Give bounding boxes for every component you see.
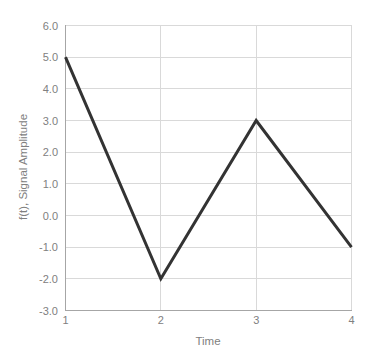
plot-area-background xyxy=(65,25,352,310)
y-axis-title: f(t), Signal Amplitude xyxy=(17,114,29,220)
y-tick-label: 1.0 xyxy=(43,178,58,190)
y-tick-label: -2.0 xyxy=(39,273,58,285)
x-tick-label: 2 xyxy=(158,314,164,326)
x-axis-title: Time xyxy=(195,335,220,347)
y-tick-label: 2.0 xyxy=(43,146,58,158)
y-tick-label: 5.0 xyxy=(43,51,58,63)
y-tick-label: 3.0 xyxy=(43,115,58,127)
y-tick-label: 4.0 xyxy=(43,83,58,95)
x-tick-labels: 1 2 3 4 xyxy=(62,314,354,326)
y-tick-label: -1.0 xyxy=(39,241,58,253)
x-tick-label: 3 xyxy=(253,314,259,326)
x-tick-label: 1 xyxy=(62,314,68,326)
y-tick-label: 0.0 xyxy=(43,210,58,222)
line-chart: 6.0 5.0 4.0 3.0 2.0 1.0 0.0 -1.0 -2.0 -3… xyxy=(0,0,375,356)
y-tick-label: -3.0 xyxy=(39,305,58,317)
x-tick-label: 4 xyxy=(348,314,354,326)
y-tick-labels: 6.0 5.0 4.0 3.0 2.0 1.0 0.0 -1.0 -2.0 -3… xyxy=(39,20,58,317)
chart-container: 6.0 5.0 4.0 3.0 2.0 1.0 0.0 -1.0 -2.0 -3… xyxy=(0,0,375,356)
y-tick-label: 6.0 xyxy=(43,20,58,32)
